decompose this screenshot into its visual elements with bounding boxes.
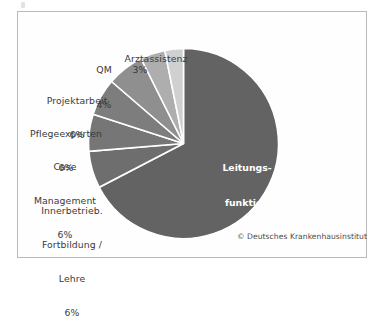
slice-label-line1: Case (12, 161, 118, 172)
slice-label-line3: Lehre (18, 273, 126, 284)
slice-label-line1: Leitungs- (205, 162, 289, 174)
slice-value-label: 6% (18, 307, 126, 318)
slice-label-leitungsfunktion: Leitungs- funktion 64% (205, 139, 289, 267)
slice-value-label: 3% (126, 64, 154, 75)
copyright-credit: © Deutsches Krankenhausinstitut (237, 232, 367, 241)
slice-label-line1: Innerbetrieb. (18, 205, 126, 216)
slice-label-line2: Fortbildung / (18, 239, 126, 250)
slice-value-arztassistenz: 3% (126, 42, 154, 99)
slice-label-innerbetriebliche-fortbildung: Innerbetrieb. Fortbildung / Lehre 6% (18, 182, 126, 320)
slice-label-line2: funktion (205, 197, 289, 209)
